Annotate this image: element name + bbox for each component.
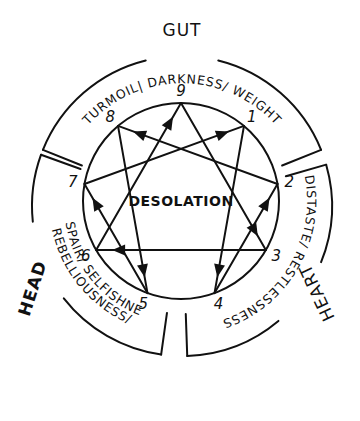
point-number-5: 5	[139, 295, 149, 313]
point-number-2: 2	[285, 173, 295, 191]
head-title: HEAD	[14, 258, 51, 318]
point-number-3: 3	[271, 247, 281, 265]
heart-title: HEART	[295, 261, 339, 325]
arrowhead-icon	[162, 117, 173, 131]
point-number-7: 7	[68, 173, 78, 191]
gut-title: GUT	[162, 20, 201, 40]
head-band-edge	[32, 155, 41, 222]
arrowhead-icon	[133, 131, 147, 141]
heart-band-edge	[321, 165, 332, 263]
gut-band-edge	[282, 150, 321, 166]
point-number-8: 8	[106, 108, 116, 126]
center-label: DESOLATION	[128, 193, 233, 209]
point-number-6: 6	[81, 247, 91, 265]
head-band-label: REBELLIOUSNESS/ DESPAIR/ SELFISHNESS HEA…	[0, 0, 145, 327]
arrowhead-icon	[215, 131, 229, 141]
arrowhead-icon	[92, 198, 103, 212]
head-band-edge	[161, 313, 167, 355]
heart-band-edge	[186, 314, 187, 356]
arrowhead-icon	[137, 264, 148, 278]
point-number-1: 1	[247, 108, 257, 126]
arrowhead-icon	[258, 198, 269, 212]
arrowhead-icon	[214, 264, 225, 278]
enneagram-diagram: GUT TURMOIL| DARKNESS/ WEIGHT DISTASTE/ …	[0, 0, 360, 421]
point-number-4: 4	[214, 295, 224, 313]
point-number-9: 9	[176, 82, 186, 100]
